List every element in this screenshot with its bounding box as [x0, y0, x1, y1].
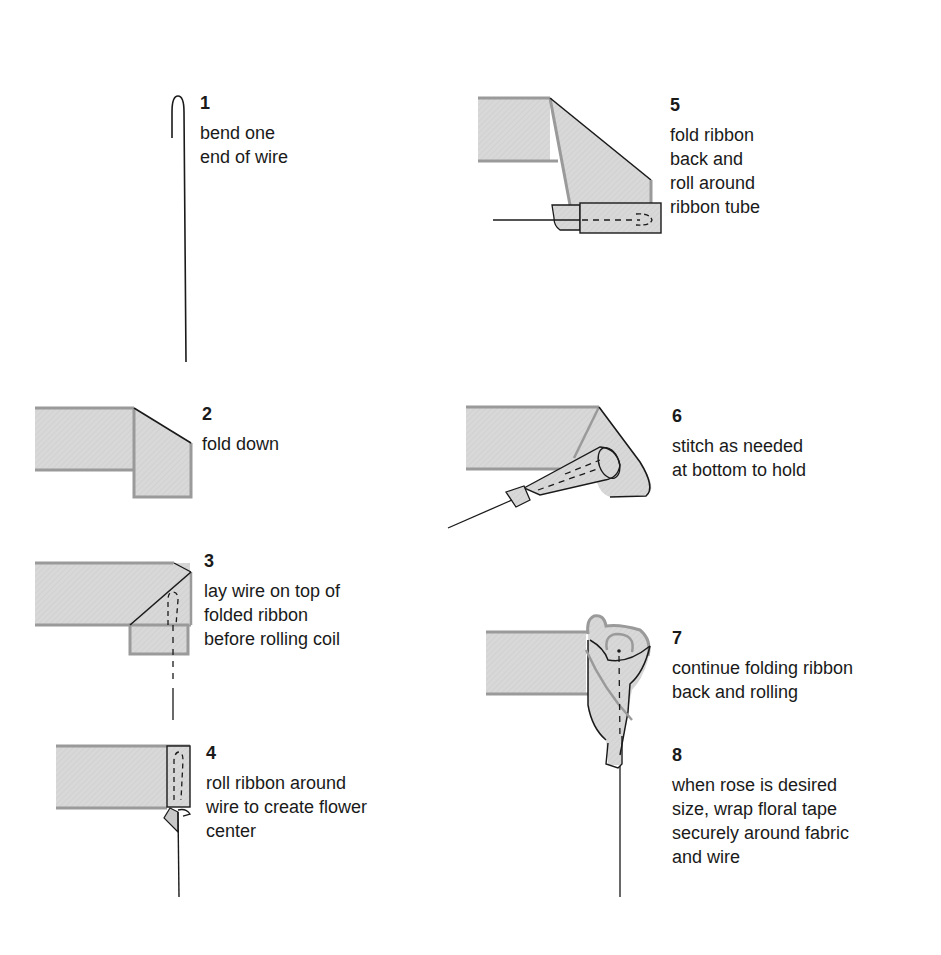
step-text: bend one end of wire	[200, 121, 288, 169]
step-text: fold ribbon back and roll around ribbon …	[670, 123, 760, 219]
step-4-ribbon-illustration	[56, 746, 190, 897]
step-2: 2 fold down	[202, 404, 279, 456]
step-text: stitch as needed at bottom to hold	[672, 434, 806, 482]
step-2-ribbon-illustration	[35, 408, 191, 497]
step-number: 8	[672, 745, 849, 765]
step-text: when rose is desired size, wrap floral t…	[672, 773, 849, 869]
step-6: 6 stitch as needed at bottom to hold	[672, 406, 806, 482]
step-5-ribbon-illustration	[478, 98, 661, 233]
step-number: 5	[670, 95, 760, 115]
step-7-8-rose-illustration	[486, 616, 650, 897]
step-8: 8 when rose is desired size, wrap floral…	[672, 745, 849, 869]
step-number: 6	[672, 406, 806, 426]
step-number: 2	[202, 404, 279, 424]
step-7: 7 continue folding ribbon back and rolli…	[672, 628, 853, 704]
step-1: 1 bend one end of wire	[200, 93, 288, 169]
step-text: roll ribbon around wire to create flower…	[206, 771, 367, 843]
step-4: 4 roll ribbon around wire to create flow…	[206, 743, 367, 843]
step-1-wire-illustration	[172, 96, 186, 362]
step-number: 3	[204, 551, 340, 571]
step-text: continue folding ribbon back and rolling	[672, 656, 853, 704]
step-3: 3 lay wire on top of folded ribbon befor…	[204, 551, 340, 651]
step-number: 1	[200, 93, 288, 113]
step-text: fold down	[202, 432, 279, 456]
step-number: 4	[206, 743, 367, 763]
step-5: 5 fold ribbon back and roll around ribbo…	[670, 95, 760, 219]
step-3-ribbon-illustration	[35, 563, 191, 720]
step-6-ribbon-illustration	[448, 407, 651, 528]
step-text: lay wire on top of folded ribbon before …	[204, 579, 340, 651]
step-number: 7	[672, 628, 853, 648]
